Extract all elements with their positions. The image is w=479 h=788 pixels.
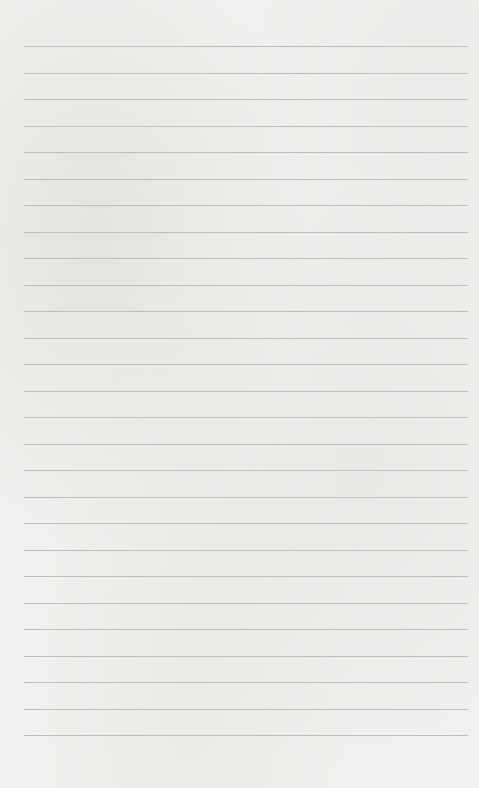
ruled-line: [24, 629, 468, 630]
ruled-line: [24, 338, 468, 339]
ruled-line: [24, 152, 468, 153]
lined-paper-sheet: [0, 0, 479, 788]
ruled-line: [24, 656, 468, 657]
ruled-line: [24, 179, 468, 180]
ruled-line: [24, 126, 468, 127]
ruled-line: [24, 391, 468, 392]
ruled-line: [24, 470, 468, 471]
ruled-line: [24, 550, 468, 551]
ruled-line: [24, 311, 468, 312]
ruled-line: [24, 364, 468, 365]
ruled-line: [24, 603, 468, 604]
ruled-line: [24, 46, 468, 47]
ruled-line: [24, 576, 468, 577]
ruled-line: [24, 232, 468, 233]
ruled-line: [24, 258, 468, 259]
ruled-line: [24, 285, 468, 286]
ruled-line: [24, 709, 468, 710]
ruled-line: [24, 682, 468, 683]
ruled-line: [24, 444, 468, 445]
ruled-line: [24, 735, 468, 736]
ruled-line: [24, 205, 468, 206]
ruled-line: [24, 497, 468, 498]
ruled-line: [24, 73, 468, 74]
ruled-line: [24, 417, 468, 418]
ruled-line: [24, 523, 468, 524]
ruled-line: [24, 99, 468, 100]
